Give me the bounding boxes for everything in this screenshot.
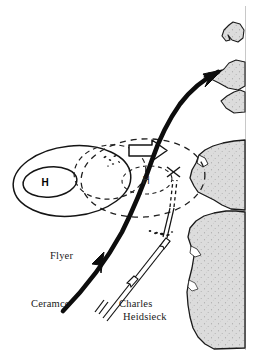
track-label-ceramco: Ceramco xyxy=(31,298,70,309)
track-label-charles-line1: Charles xyxy=(119,298,152,309)
chart-canvas: H H Flyer Ceramco Charles Heidsieck xyxy=(0,0,255,358)
track-label-flyer: Flyer xyxy=(50,250,73,261)
land-africa xyxy=(187,211,245,349)
track-label-charles-line2: Heidsieck xyxy=(123,311,167,322)
high-pressure-label-solid: H xyxy=(41,177,48,188)
high-pressure-label-dashed: H xyxy=(142,175,149,186)
weather-routing-chart: H H Flyer Ceramco Charles Heidsieck xyxy=(0,0,255,358)
